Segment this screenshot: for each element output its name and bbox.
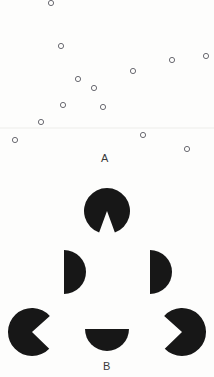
middle-left-disc <box>64 250 86 294</box>
bottom-left-disc <box>8 308 50 356</box>
scatter-point <box>91 85 96 90</box>
panel-b-label: B <box>103 360 111 372</box>
scatter-point <box>75 76 80 81</box>
panel-a-scatter: A <box>0 0 214 185</box>
scatter-point <box>48 0 53 5</box>
bottom-right-disc <box>164 308 206 356</box>
pacman-shapes-svg <box>0 185 214 377</box>
scatter-point <box>130 68 135 73</box>
scatter-point-group <box>12 0 208 151</box>
scatter-point <box>60 102 65 107</box>
scatter-point <box>140 132 145 137</box>
middle-right-disc <box>150 250 172 294</box>
figure-container: A B <box>0 0 214 377</box>
scatter-point <box>38 119 43 124</box>
scatter-point <box>100 104 105 109</box>
scatter-point <box>169 57 174 62</box>
scatter-point <box>203 53 208 58</box>
bottom-center-disc <box>85 329 129 351</box>
panel-b-illusory-figure: B <box>0 185 214 377</box>
scatter-point <box>58 43 63 48</box>
panel-a-label: A <box>101 152 109 164</box>
scatter-point <box>12 137 17 142</box>
scatter-point <box>184 146 189 151</box>
pacman-disc-group <box>8 188 206 356</box>
top-disc <box>84 188 130 233</box>
